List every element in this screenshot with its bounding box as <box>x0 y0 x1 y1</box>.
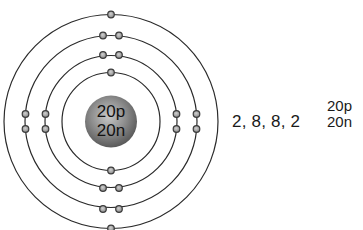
electron <box>108 167 115 174</box>
electron <box>100 52 107 59</box>
electron <box>173 111 180 118</box>
electron <box>108 11 115 18</box>
electron <box>100 206 107 213</box>
bohr-model-diagram: 20p 20n <box>0 0 230 230</box>
electron <box>100 185 107 192</box>
electron <box>116 185 123 192</box>
electron <box>100 32 107 39</box>
electron <box>42 111 49 118</box>
electron <box>22 111 29 118</box>
nucleus: 20p 20n <box>85 96 137 148</box>
electron-configuration: 2, 8, 8, 2 <box>232 112 300 132</box>
nucleus-neutrons-label: 20n <box>97 121 125 140</box>
electron <box>108 69 115 76</box>
electron <box>42 126 49 133</box>
electron <box>116 32 123 39</box>
electron <box>193 126 200 133</box>
legend-protons: 20p <box>327 98 352 114</box>
electron <box>22 126 29 133</box>
legend-neutrons: 20n <box>327 114 352 130</box>
nucleus-protons-label: 20p <box>97 102 125 121</box>
electron <box>193 111 200 118</box>
electron <box>116 52 123 59</box>
nucleus-legend: 20p 20n <box>327 98 352 130</box>
electron <box>116 206 123 213</box>
electron <box>108 225 115 230</box>
electron <box>173 126 180 133</box>
